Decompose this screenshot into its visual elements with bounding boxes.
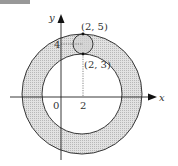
x-tick-label-2: 2: [80, 100, 86, 111]
y-axis-label: y: [48, 12, 55, 23]
origin-label: 0: [53, 100, 59, 111]
y-axis-arrow-icon: [58, 14, 65, 23]
x-axis-arrow-icon: [148, 94, 157, 101]
point-2-3: [82, 53, 85, 56]
point-label-2-3: (2, 3): [84, 59, 111, 70]
x-axis-label: x: [159, 92, 165, 103]
y-tick-label-4: 4: [54, 39, 60, 50]
point-label-2-5: (2, 5): [81, 21, 108, 32]
annulus-diagram: y x 0 2 4 (2, 5) (2, 3): [0, 0, 178, 166]
point-2-5: [82, 33, 85, 36]
